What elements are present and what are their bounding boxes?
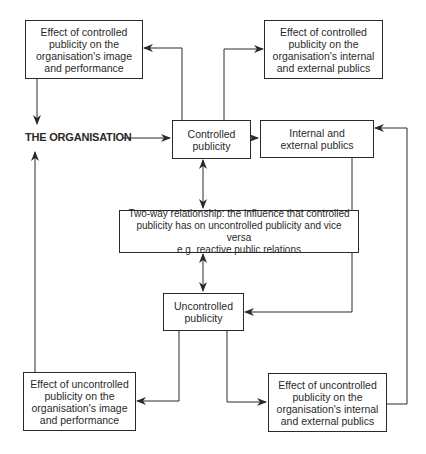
effect-controlled-publics-text: Effect of controlled publicity on the or… — [273, 26, 375, 74]
edge-controlled-to-effect-publics — [224, 49, 263, 120]
two-way-relationship-text: Two-way relationship: the influence that… — [124, 208, 354, 256]
effect-uncontrolled-publics-box: Effect of uncontrolled publicity on the … — [268, 373, 387, 432]
effect-controlled-image-text: Effect of controlled publicity on the or… — [36, 26, 132, 74]
edge-uncontrolled-to-effect-image — [137, 330, 179, 401]
two-way-relationship-box: Two-way relationship: the influence that… — [119, 210, 359, 253]
effect-uncontrolled-publics-text: Effect of uncontrolled publicity on the … — [277, 379, 379, 427]
edge-uncontrolled-to-effect-publics — [227, 330, 266, 402]
effect-uncontrolled-image-text: Effect of uncontrolled publicity on the … — [30, 378, 128, 426]
internal-external-publics-text: Internal and external publics — [281, 127, 354, 151]
effect-controlled-publics-box: Effect of controlled publicity on the or… — [264, 20, 383, 79]
effect-controlled-image-box: Effect of controlled publicity on the or… — [25, 20, 143, 79]
controlled-publicity-text: Controlled publicity — [188, 128, 236, 152]
edge-controlled-to-effect-image — [144, 48, 182, 120]
uncontrolled-publicity-text: Uncontrolled publicity — [174, 300, 233, 324]
edge-effect-uncontrolled-publics-to-publics — [375, 128, 407, 404]
effect-uncontrolled-image-box: Effect of uncontrolled publicity on the … — [23, 372, 136, 431]
organisation-label: THE ORGANISATION — [25, 131, 132, 143]
controlled-publicity-box: Controlled publicity — [172, 120, 251, 159]
uncontrolled-publicity-box: Uncontrolled publicity — [163, 293, 244, 331]
internal-external-publics-box: Internal and external publics — [260, 120, 374, 158]
